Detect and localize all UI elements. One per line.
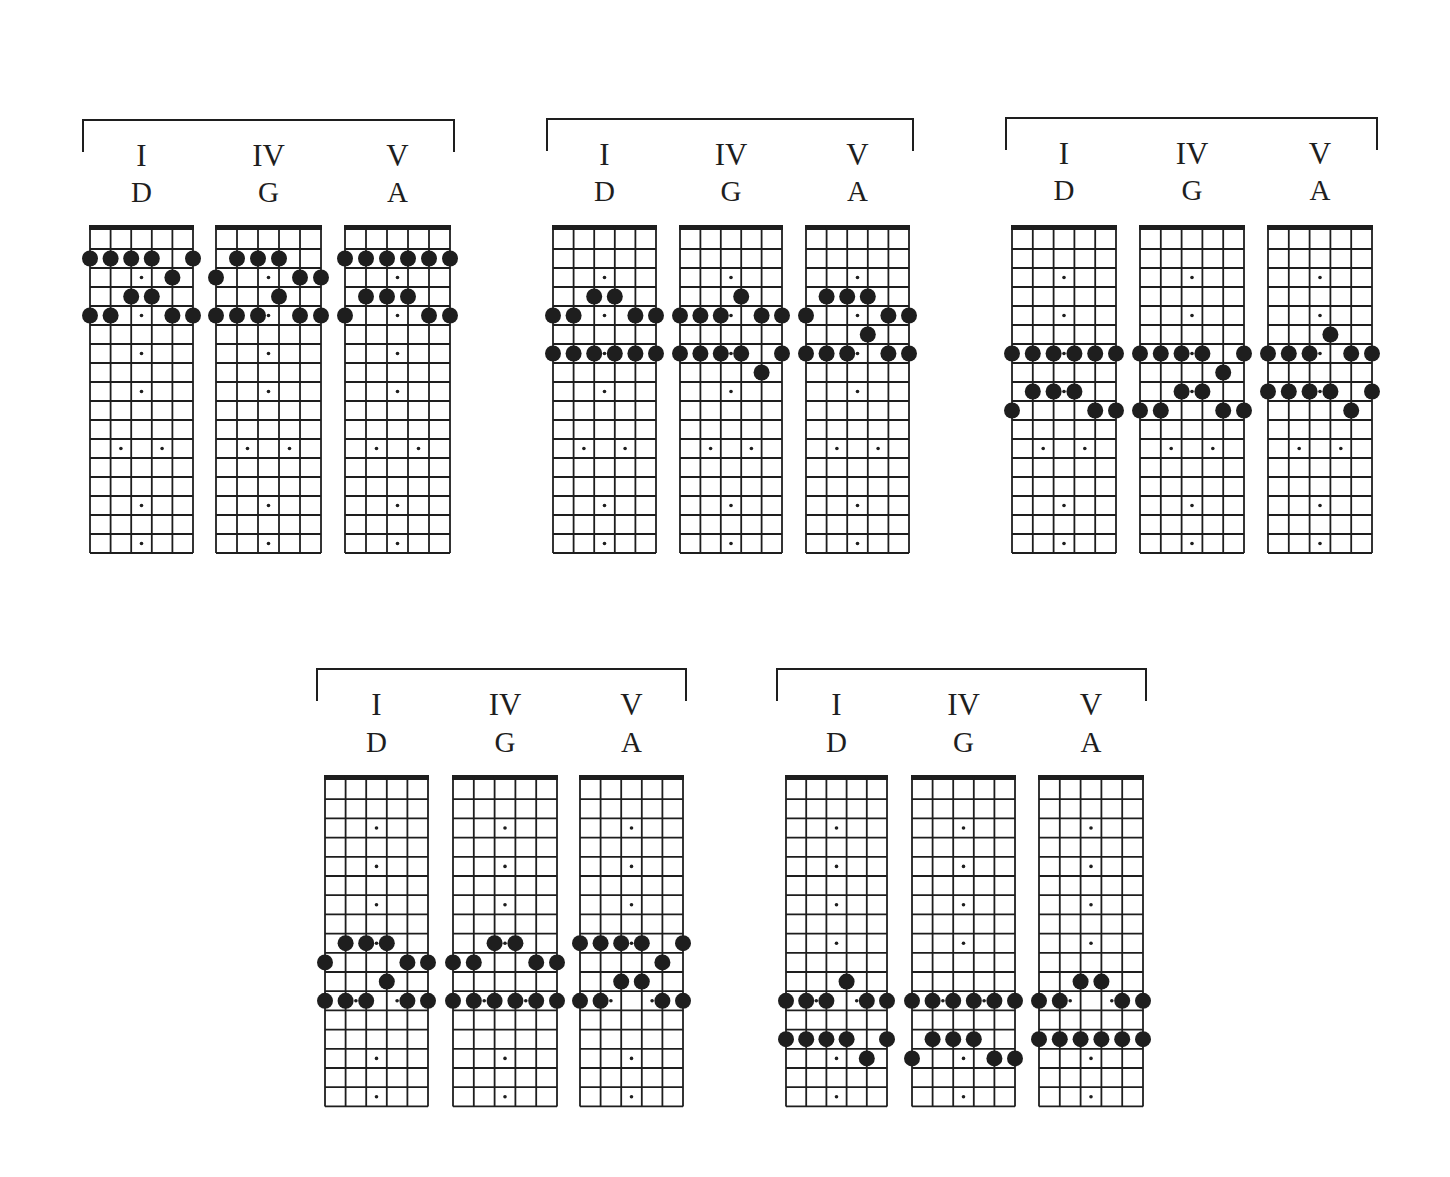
scale-note-dot — [1260, 346, 1276, 362]
scale-note-dot — [1108, 346, 1124, 362]
scale-note-dot — [1302, 346, 1318, 362]
fret-inlay-marker — [1190, 314, 1194, 318]
chord-name-label: G — [1182, 174, 1203, 206]
scale-note-dot — [672, 308, 688, 324]
fret-inlay-marker — [603, 390, 607, 394]
scale-note-dot — [229, 308, 245, 324]
fret-inlay-marker — [140, 390, 144, 394]
scale-note-dot — [1066, 346, 1082, 362]
fret-inlay-marker — [1190, 390, 1194, 394]
scale-note-dot — [879, 1031, 895, 1047]
nut — [785, 775, 888, 780]
roman-numeral-label: V — [1309, 136, 1332, 171]
scale-note-dot — [82, 251, 98, 267]
scale-note-dot — [607, 346, 623, 362]
fret-inlay-marker — [1089, 1057, 1093, 1061]
fret-inlay-marker — [1089, 865, 1093, 869]
scale-note-dot — [778, 1031, 794, 1047]
scale-note-dot — [860, 289, 876, 305]
scale-note-dot — [1087, 346, 1103, 362]
scale-note-dot — [338, 993, 354, 1009]
fret-inlay-marker — [603, 504, 607, 508]
fret-inlay-marker — [1318, 352, 1322, 356]
fret-inlay-marker — [962, 1095, 966, 1099]
chord-name-label: D — [1054, 174, 1075, 206]
fret-inlay-marker — [1190, 504, 1194, 508]
roman-numeral-label: IV — [252, 138, 285, 173]
scale-note-dot — [774, 346, 790, 362]
fret-inlay-marker — [267, 504, 271, 508]
scale-note-dot — [487, 993, 503, 1009]
scale-note-dot — [379, 251, 395, 267]
fret-inlay-marker — [1190, 542, 1194, 546]
fret-inlay-marker — [160, 447, 164, 451]
scale-note-dot — [337, 308, 353, 324]
scale-note-dot — [445, 993, 461, 1009]
fret-inlay-marker — [1089, 903, 1093, 907]
fret-inlay-marker — [630, 865, 634, 869]
scale-note-dot — [901, 308, 917, 324]
scale-note-dot — [733, 346, 749, 362]
scale-note-dot — [819, 346, 835, 362]
fret-inlay-marker — [1062, 504, 1066, 508]
scale-note-dot — [317, 954, 333, 970]
scale-note-dot — [839, 289, 855, 305]
scale-note-dot — [904, 993, 920, 1009]
fret-inlay-marker — [1318, 504, 1322, 508]
scale-note-dot — [1281, 346, 1297, 362]
scale-note-dot — [839, 974, 855, 990]
chord-name-label: D — [131, 176, 152, 208]
fret-inlay-marker — [856, 352, 860, 356]
scale-note-dot — [1153, 403, 1169, 419]
scale-note-dot — [818, 993, 834, 1009]
fret-inlay-marker — [623, 447, 627, 451]
fret-inlay-marker — [729, 504, 733, 508]
scale-note-dot — [566, 346, 582, 362]
scale-note-dot — [901, 346, 917, 362]
scale-note-dot — [442, 308, 458, 324]
nut — [1139, 225, 1245, 230]
scale-note-dot — [144, 251, 160, 267]
scale-note-dot — [593, 993, 609, 1009]
fret-inlay-marker — [375, 1095, 379, 1099]
scale-note-dot — [379, 974, 395, 990]
scale-note-dot — [713, 346, 729, 362]
fret-inlay-marker — [962, 865, 966, 869]
fret-inlay-marker — [835, 941, 839, 945]
nut — [452, 775, 558, 780]
scale-note-dot — [507, 935, 523, 951]
scale-note-dot — [271, 289, 287, 305]
chord-name-label: G — [495, 726, 516, 758]
scale-note-dot — [1174, 346, 1190, 362]
nut — [324, 775, 429, 780]
scale-note-dot — [292, 270, 308, 286]
scale-note-dot — [613, 974, 629, 990]
nut — [911, 775, 1016, 780]
scale-note-dot — [399, 954, 415, 970]
scale-note-dot — [144, 289, 160, 305]
scale-note-dot — [507, 993, 523, 1009]
fret-inlay-marker — [630, 1057, 634, 1061]
fret-inlay-marker — [709, 447, 713, 451]
fret-inlay-marker — [982, 999, 986, 1003]
scale-note-dot — [627, 308, 643, 324]
fret-inlay-marker — [729, 352, 733, 356]
scale-note-dot — [1302, 384, 1318, 400]
scale-note-dot — [400, 289, 416, 305]
scale-note-dot — [1132, 403, 1148, 419]
scale-note-dot — [337, 251, 353, 267]
scale-note-dot — [400, 251, 416, 267]
scale-note-dot — [1004, 403, 1020, 419]
scale-note-dot — [1343, 403, 1359, 419]
scale-note-dot — [229, 251, 245, 267]
scale-note-dot — [545, 346, 561, 362]
roman-numeral-label: IV — [489, 687, 522, 722]
scale-note-dot — [692, 308, 708, 324]
scale-note-dot — [185, 308, 201, 324]
fret-inlay-marker — [524, 999, 528, 1003]
fret-inlay-marker — [1190, 276, 1194, 280]
scale-note-dot — [1132, 346, 1148, 362]
roman-numeral-label: I — [599, 137, 609, 172]
fret-inlay-marker — [1211, 447, 1215, 451]
scale-note-dot — [103, 308, 119, 324]
